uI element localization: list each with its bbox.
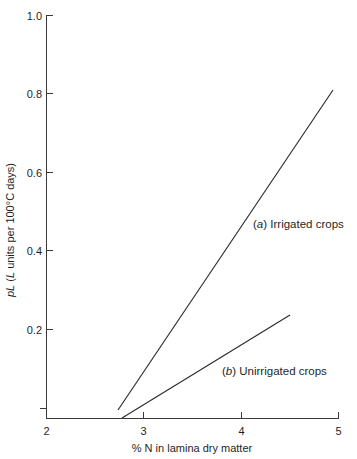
series-annotation-unirrigated-crops: (b) Unirrigated crops: [222, 365, 327, 377]
series-line-irrigated-crops: [118, 90, 333, 410]
y-axis-title-italic-pL: pL: [4, 285, 16, 298]
chart-figure: 1.0 0.8 0.6 0.4 0.2 2 3 4 5 % N in lamin…: [0, 0, 357, 459]
y-tick-label-0.6: 0.6: [27, 167, 42, 179]
y-tick-label-1.0: 1.0: [27, 10, 42, 22]
x-tick-label-5: 5: [335, 425, 341, 437]
y-tick-label-0.8: 0.8: [27, 88, 42, 100]
chart-canvas: 1.0 0.8 0.6 0.4 0.2 2 3 4 5 % N in lamin…: [0, 0, 357, 459]
x-tick-label-2: 2: [43, 425, 49, 437]
x-axis-title: % N in lamina dry matter: [132, 442, 253, 454]
x-tick-label-4: 4: [238, 425, 244, 437]
x-tick-label-3: 3: [140, 425, 146, 437]
y-tick-label-0.2: 0.2: [27, 324, 42, 336]
series-a-name: Irrigated crops: [270, 218, 344, 230]
y-axis-title: pL (L units per 100°C days): [4, 163, 16, 298]
y-tick-label-0.4: 0.4: [27, 245, 42, 257]
y-axis-title-tail: units per 100°C days): [4, 163, 16, 272]
series-b-paren-close: ): [232, 365, 239, 377]
series-a-paren-close: ): [263, 218, 270, 230]
series-b-name: Unirrigated crops: [239, 365, 327, 377]
series-annotation-irrigated-crops: (a) Irrigated crops: [253, 218, 344, 230]
